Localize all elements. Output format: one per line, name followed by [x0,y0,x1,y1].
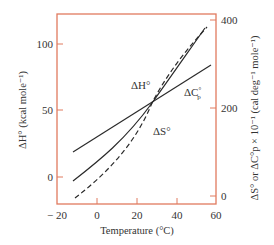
chart: − 20 0 20 40 60 Temperature (°C) 0 50 10… [0,0,274,245]
curve-label-delta-cp: ΔC°p [184,86,201,101]
x-tick-labels: − 20 0 20 40 60 [47,209,222,221]
x-tick-label: 60 [211,209,223,221]
y-left-tick-label: 100 [37,38,54,50]
y-left-axis-title: ΔH° (kcal mole⁻¹) [17,71,29,149]
y-right-tick-label: 0 [221,190,227,202]
left-y-axis [57,44,63,177]
x-tick-label: 20 [132,209,144,221]
x-axis [97,198,177,204]
y-right-tick-label: 400 [221,14,238,26]
curve-label-delta-s: ΔS° [153,125,171,137]
x-tick-label: 0 [94,209,100,221]
y-right-axis-title: ΔS° or ΔC°p × 10⁻¹ (cal deg⁻¹ mole⁻¹) [249,35,261,200]
x-tick-label: − 20 [47,209,67,221]
y-right-tick-label: 200 [221,102,238,114]
curve-label-delta-h: ΔH° [131,79,150,91]
x-tick-label: 40 [172,209,184,221]
y-left-tick-label: 50 [42,104,54,116]
x-axis-title: Temperature (°C) [100,225,174,237]
curve-label-delta-cp-sub: p [197,93,201,101]
curve-delta-h [73,28,205,181]
y-left-tick-label: 0 [48,171,54,183]
right-y-axis [210,20,216,196]
